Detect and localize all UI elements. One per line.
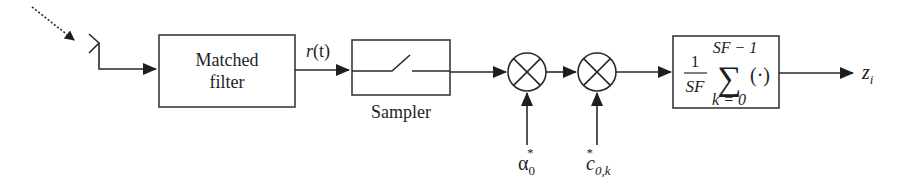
summation-block: 1 SF SF − 1 ∑ k = 0 (·) xyxy=(673,36,779,108)
matched-filter-label-line1: Matched xyxy=(196,50,259,70)
sampler-block: Sampler xyxy=(352,40,450,122)
sum-upper-limit: SF − 1 xyxy=(713,39,758,56)
antenna-icon xyxy=(89,34,156,69)
matched-filter-block: Matched filter xyxy=(159,35,295,107)
fraction-denominator: SF xyxy=(686,77,706,96)
sum-lower-limit: k = 0 xyxy=(712,91,746,108)
block-diagram: Matched filter r(t) Sampler α0* c0,k* 1 xyxy=(0,0,906,190)
multiplier-1-icon xyxy=(508,53,546,91)
multiplier-2-icon xyxy=(578,53,616,91)
incoming-signal-arrow xyxy=(32,7,74,40)
output-label: zi xyxy=(861,61,874,87)
code-conjugate-label: c0,k* xyxy=(586,145,611,178)
sampler-label: Sampler xyxy=(371,102,431,122)
matched-filter-label-line2: filter xyxy=(210,72,245,92)
fraction-numerator: 1 xyxy=(691,52,700,71)
sum-operand: (·) xyxy=(750,64,770,87)
alpha-conjugate-label: α0* xyxy=(518,145,535,178)
rt-signal-label: r(t) xyxy=(306,41,330,62)
